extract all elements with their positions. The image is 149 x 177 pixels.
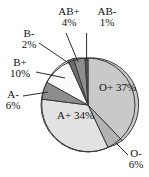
- pie-label-a-negative-name: A-: [7, 88, 19, 100]
- pie-label-o-negative-value: 6%: [124, 159, 148, 170]
- pie-label-o-negative: O- 6%: [124, 148, 148, 170]
- leader-line-ab-positive: [66, 33, 78, 62]
- pie-label-ab-negative-name: AB-: [98, 5, 117, 17]
- pie-label-a-positive: A+ 34%: [57, 110, 87, 121]
- pie-label-b-positive-value: 10%: [4, 68, 36, 79]
- pie-label-ab-positive-name: AB+: [58, 5, 79, 17]
- pie-label-o-negative-name: O-: [130, 147, 142, 159]
- pie-label-o-positive: O+ 37%: [99, 82, 129, 93]
- pie-label-b-negative-value: 2%: [14, 39, 44, 50]
- pie-label-a-negative: A- 6%: [0, 89, 26, 111]
- pie-label-ab-negative-value: 1%: [90, 17, 124, 28]
- pie-label-ab-positive-value: 4%: [52, 17, 86, 28]
- blood-type-pie-chart: AB+ 4% AB- 1% B- 2% B+ 10% A- 6% O- 6% O…: [0, 0, 149, 177]
- pie-label-b-negative-name: B-: [24, 27, 35, 39]
- pie-label-o-positive-name: O+: [99, 81, 113, 93]
- pie-label-b-negative: B- 2%: [14, 28, 44, 50]
- pie-label-ab-negative: AB- 1%: [90, 6, 124, 28]
- pie-label-b-positive-name: B+: [13, 56, 27, 68]
- pie-label-a-positive-name: A+: [57, 109, 71, 121]
- pie-label-a-negative-value: 6%: [0, 100, 26, 111]
- pie-label-b-positive: B+ 10%: [4, 57, 36, 79]
- pie-label-a-positive-value: 34%: [74, 109, 94, 121]
- pie-label-ab-positive: AB+ 4%: [52, 6, 86, 28]
- pie-label-o-positive-value: 37%: [116, 81, 136, 93]
